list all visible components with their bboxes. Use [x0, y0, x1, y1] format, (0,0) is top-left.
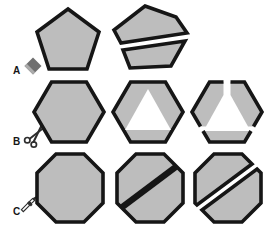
hexagon-separated-pieces	[192, 82, 262, 142]
hexagon-with-triangle-cut	[113, 82, 183, 142]
scissors-handle	[31, 142, 36, 147]
diagram-canvas: A B	[0, 0, 270, 231]
pentagon-piece-bottom	[123, 41, 185, 68]
row-label-a: A	[13, 65, 20, 76]
hexagon-original	[34, 82, 104, 142]
row-a: A	[13, 6, 187, 76]
tools-cutting-diagram: A B	[0, 0, 270, 231]
octagon-with-knife-path	[117, 154, 183, 222]
eraser-icon	[25, 58, 42, 75]
row-c: C	[13, 154, 261, 222]
pentagon-original	[37, 9, 99, 69]
knife-handle	[21, 203, 29, 211]
row-label-c: C	[13, 206, 20, 217]
scissors-handle	[25, 138, 30, 143]
octagon-separated-pieces	[195, 154, 261, 222]
row-label-b: B	[13, 136, 20, 147]
octagon-original	[37, 154, 103, 222]
row-b: B	[13, 82, 262, 147]
pentagon-piece-top	[114, 6, 187, 43]
